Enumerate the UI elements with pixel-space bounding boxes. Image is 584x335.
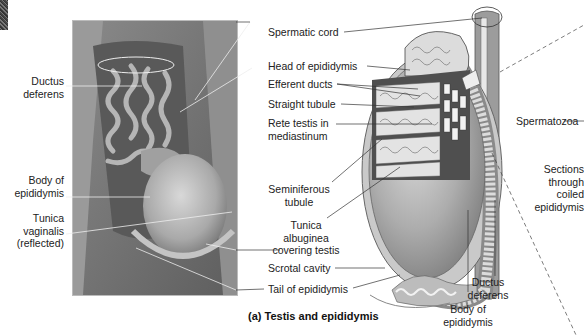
label-line: Sections (524, 163, 584, 176)
label-line: epididymis (4, 187, 64, 200)
label-spermatic-cord: Spermatic cord (268, 26, 339, 39)
label-tail-of-epididymis: Tail of epididymis (268, 283, 348, 296)
label-line: vaginalis (4, 225, 64, 238)
label-line: through (524, 176, 584, 189)
label-head-of-epididymis: Head of epididymis (268, 60, 357, 73)
label-line: Body of (432, 303, 504, 316)
label-line: (reflected) (4, 237, 64, 250)
label-spermatozoa: Spermatozoa (516, 115, 578, 128)
label-line: deferens (458, 289, 518, 302)
label-line: epididymis (524, 201, 584, 214)
testis-diagram (362, 7, 502, 308)
label-line: epididymis (432, 316, 504, 329)
label-line: Body of (4, 174, 64, 187)
label-line: Ductus (20, 75, 64, 88)
label-line: Tunica (266, 219, 346, 232)
label-line: albuginea (266, 232, 346, 245)
label-rete-testis: Rete testis in mediastinum (268, 117, 329, 142)
label-line: Seminiferous (264, 183, 334, 196)
label-straight-tubule: Straight tubule (268, 98, 336, 111)
label-sections-through-coiled-epididymis: Sections through coiled epididymis (524, 163, 584, 213)
label-line: mediastinum (268, 130, 329, 143)
label-line: Rete testis in (268, 117, 329, 130)
label-efferent-ducts: Efferent ducts (268, 78, 333, 91)
label-tunica-vaginalis: Tunica vaginalis (reflected) (4, 212, 64, 250)
photo-leader-lines (66, 22, 252, 290)
label-ductus-deferens-diagram: Ductus deferens (458, 276, 518, 301)
label-body-of-epididymis-diagram: Body of epididymis (432, 303, 504, 328)
label-ductus-deferens-photo: Ductus deferens (20, 75, 64, 100)
label-line: Tunica (4, 212, 64, 225)
label-scrotal-cavity: Scrotal cavity (268, 262, 330, 275)
label-seminiferous-tubule: Seminiferous tubule (264, 183, 334, 208)
label-line: Ductus (458, 276, 518, 289)
label-line: tubule (264, 196, 334, 209)
label-line: deferens (20, 88, 64, 101)
label-body-of-epididymis-photo: Body of epididymis (4, 174, 64, 199)
figure-caption: (a) Testis and epididymis (248, 310, 379, 322)
label-line: covering testis (266, 244, 346, 257)
label-tunica-albuginea: Tunica albuginea covering testis (266, 219, 346, 257)
label-line: coiled (524, 188, 584, 201)
